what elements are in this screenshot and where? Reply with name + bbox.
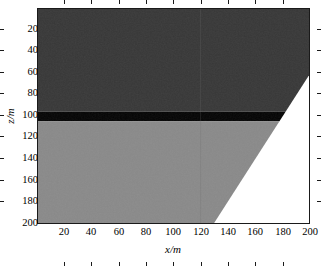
x-ticklabel-20: 20 <box>59 227 70 238</box>
x-ticklabel-200: 200 <box>302 227 318 238</box>
velocity-model-image <box>38 9 309 223</box>
y-ticklabel-20: 20 <box>28 24 39 35</box>
y-tick-right-180 <box>317 201 321 202</box>
y-ticklabel-160: 160 <box>22 175 38 186</box>
x-tick-top-40 <box>91 0 92 4</box>
x-tick-top-80 <box>146 0 147 4</box>
y-tick-20 <box>0 29 4 30</box>
x-ticklabel-40: 40 <box>86 227 97 238</box>
y-tick-right-60 <box>317 72 321 73</box>
x-ticklabel-160: 160 <box>247 227 263 238</box>
y-tick-60 <box>0 72 4 73</box>
y-ticklabel-120: 120 <box>22 131 38 142</box>
y-tick-right-80 <box>317 93 321 94</box>
x-tick-top-120 <box>201 0 202 4</box>
y-ticklabel-140: 140 <box>22 153 38 164</box>
y-ticklabel-80: 80 <box>28 88 39 99</box>
x-tick-100 <box>173 262 174 266</box>
x-ticklabel-180: 180 <box>275 227 291 238</box>
x-tick-80 <box>146 262 147 266</box>
x-tick-180 <box>283 262 284 266</box>
y-tick-right-20 <box>317 29 321 30</box>
x-axis-label: x/m <box>165 243 181 255</box>
y-tick-120 <box>0 136 4 137</box>
y-ticklabel-60: 60 <box>28 67 39 78</box>
x-tick-140 <box>228 262 229 266</box>
x-tick-20 <box>64 262 65 266</box>
y-ticklabel-200: 200 <box>22 218 38 229</box>
y-tick-right-140 <box>317 158 321 159</box>
y-ticklabel-40: 40 <box>28 45 39 56</box>
x-tick-top-20 <box>64 0 65 4</box>
y-tick-180 <box>0 201 4 202</box>
x-ticklabel-60: 60 <box>114 227 125 238</box>
x-tick-40 <box>91 262 92 266</box>
x-ticklabel-140: 140 <box>220 227 236 238</box>
x-tick-top-180 <box>283 0 284 4</box>
y-tick-right-40 <box>317 50 321 51</box>
x-ticklabel-100: 100 <box>165 227 181 238</box>
y-axis-label: z/m <box>4 108 16 123</box>
x-tick-top-100 <box>173 0 174 4</box>
figure-container: 20 40 60 80 100 120 140 160 180 200 20 4… <box>0 0 321 266</box>
y-tick-40 <box>0 50 4 51</box>
x-ticklabel-120: 120 <box>193 227 209 238</box>
y-tick-140 <box>0 158 4 159</box>
y-ticklabel-180: 180 <box>22 196 38 207</box>
y-tick-160 <box>0 180 4 181</box>
x-tick-120 <box>201 262 202 266</box>
x-tick-60 <box>119 262 120 266</box>
x-ticklabel-80: 80 <box>141 227 152 238</box>
y-tick-80 <box>0 93 4 94</box>
x-tick-top-140 <box>228 0 229 4</box>
x-tick-160 <box>255 262 256 266</box>
x-tick-top-160 <box>255 0 256 4</box>
y-tick-right-120 <box>317 136 321 137</box>
plot-area <box>37 8 310 224</box>
y-tick-right-160 <box>317 180 321 181</box>
x-tick-top-60 <box>119 0 120 4</box>
y-tick-right-100 <box>317 115 321 116</box>
y-ticklabel-100: 100 <box>22 110 38 121</box>
